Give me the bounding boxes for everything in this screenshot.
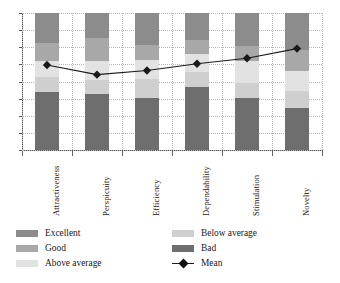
legend-label: Bad [201, 244, 216, 253]
chart-root: AttractivenessPerspicuityEfficiencyDepen… [0, 0, 340, 283]
x-axis-label-attractiveness: Attractiveness [51, 165, 61, 216]
legend-label: Above average [45, 259, 101, 268]
legend-column-left: ExcellentGoodAbove average [16, 226, 166, 271]
mean-marker [43, 61, 51, 69]
mean-marker [293, 44, 301, 52]
legend-label: Good [45, 244, 66, 253]
chart-legend: ExcellentGoodAbove average Below average… [16, 226, 324, 276]
x-axis-tick [322, 151, 323, 156]
legend-column-right: Below averageBadMean [172, 226, 322, 271]
legend-item-excellent[interactable]: Excellent [16, 226, 166, 241]
x-axis-label-novelty: Novelty [301, 188, 311, 216]
x-axis-labels: AttractivenessPerspicuityEfficiencyDepen… [22, 152, 322, 218]
legend-swatch [16, 260, 38, 267]
legend-item-above-average[interactable]: Above average [16, 256, 166, 271]
plot-area [22, 13, 322, 150]
mean-marker [243, 54, 251, 62]
legend-swatch [172, 245, 194, 252]
legend-label: Mean [201, 259, 222, 268]
legend-item-mean[interactable]: Mean [172, 256, 322, 271]
mean-line-svg [22, 13, 322, 150]
legend-item-good[interactable]: Good [16, 241, 166, 256]
mean-series-layer [22, 13, 322, 150]
legend-item-below-average[interactable]: Below average [172, 226, 322, 241]
mean-marker [143, 66, 151, 74]
mean-marker [93, 70, 101, 78]
mean-legend-marker-icon [172, 259, 194, 268]
x-axis-label-dependability: Dependability [201, 166, 211, 216]
mean-marker [193, 59, 201, 67]
x-axis-label-perspicuity: Perspicuity [101, 176, 111, 216]
legend-item-bad[interactable]: Bad [172, 241, 322, 256]
gridline-vertical [322, 13, 323, 150]
legend-swatch [16, 230, 38, 237]
mean-line [47, 49, 297, 75]
legend-swatch [172, 230, 194, 237]
x-axis-label-stimulation: Stimulation [251, 175, 261, 216]
legend-label: Below average [201, 229, 257, 238]
legend-label: Excellent [45, 229, 80, 238]
x-axis-label-efficiency: Efficiency [151, 179, 161, 216]
gridline-horizontal [22, 150, 322, 151]
legend-swatch [16, 245, 38, 252]
